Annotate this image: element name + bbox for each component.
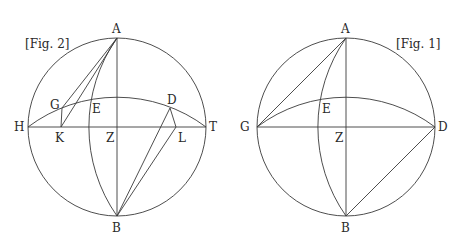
figure-1-caption: [Fig. 1] [396,37,440,51]
line-GK [61,108,62,127]
label-A: A [111,22,121,36]
line-DB [346,127,435,216]
label-H: H [14,120,24,134]
figure-1: [Fig. 1] A B E G Z D [240,22,448,235]
label-E: E [322,102,331,116]
line-DB [117,108,170,216]
label-Z: Z [106,131,114,145]
label-D: D [167,93,177,107]
geometry-diagram: [Fig. 2] A B G E D H K Z L T [Fig. 1] [0,0,463,238]
label-G: G [50,98,60,112]
label-E: E [92,102,101,116]
label-A: A [340,22,350,36]
line-LB [117,127,176,216]
label-L: L [178,131,186,145]
line-AG [257,38,346,127]
label-Z: Z [335,131,343,145]
figure-2-caption: [Fig. 2] [25,37,69,51]
label-G: G [240,120,250,134]
line-DL [170,108,176,127]
figure-2: [Fig. 2] A B G E D H K Z L T [14,22,217,235]
label-B: B [341,221,350,235]
label-K: K [55,131,65,145]
label-B: B [112,221,121,235]
label-T: T [209,120,217,134]
label-D: D [438,120,448,134]
